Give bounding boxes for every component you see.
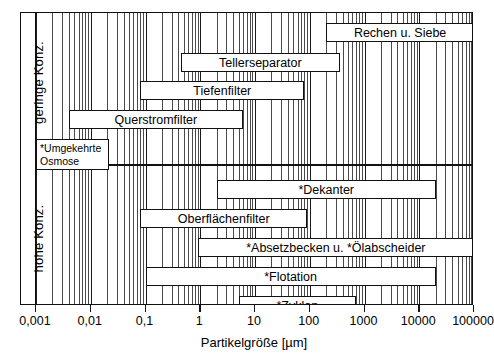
x-tick	[199, 305, 200, 312]
process-bar-label: *Zyklon	[276, 299, 318, 305]
gridline-minor	[445, 13, 446, 304]
gridline-minor	[348, 13, 349, 304]
gridline-minor	[466, 13, 467, 304]
gridline-decade	[146, 13, 147, 304]
gridline-minor	[356, 13, 357, 304]
gridline-minor	[462, 13, 463, 304]
process-bar[interactable]: *UmgekehrteOsmose	[36, 139, 109, 170]
gridline-minor	[162, 13, 163, 304]
gridline-minor	[359, 13, 360, 304]
process-bar[interactable]: *Absetzbecken u. *Ölabscheider	[198, 238, 472, 257]
gridline-minor	[414, 13, 415, 304]
chart-frame: Rechen u. SiebeTellerseparatorTiefenfilt…	[20, 12, 473, 305]
gridline-minor	[469, 13, 470, 304]
x-tick	[90, 305, 91, 312]
x-tick-label: 10000	[401, 314, 436, 328]
gridline-minor	[362, 13, 363, 304]
x-tick	[309, 305, 310, 312]
x-tick-label: 1000	[350, 314, 378, 328]
x-tick-label: 0,001	[19, 314, 50, 328]
gridline-minor	[178, 13, 179, 304]
x-tick	[418, 305, 419, 312]
process-bar-label: Tellerseparator	[219, 56, 302, 70]
process-bar-label: *Umgekehrte	[40, 142, 101, 154]
zone-label-geringe-konz: geringe Konz.	[31, 20, 46, 146]
x-axis: 0,0010,010,1110100100010000100000 Partik…	[35, 305, 473, 355]
x-tick	[364, 305, 365, 312]
x-tick	[254, 305, 255, 312]
process-bar[interactable]: *Flotation	[146, 267, 436, 286]
process-bar[interactable]: Querstromfilter	[69, 110, 243, 129]
gridline-minor	[352, 13, 353, 304]
x-tick	[35, 305, 36, 312]
process-bar-label: Oberflächenfilter	[178, 212, 270, 226]
x-tick-label: 10	[247, 314, 261, 328]
gridline-minor	[458, 13, 459, 304]
x-tick-label: 100000	[452, 314, 494, 328]
process-bar[interactable]: Oberflächenfilter	[140, 209, 307, 228]
process-bar-label: *Flotation	[264, 270, 317, 284]
process-bar-label: *Dekanter	[298, 183, 354, 197]
gridline-minor	[143, 13, 144, 304]
gridline-minor	[403, 13, 404, 304]
gridline-minor	[124, 13, 125, 304]
process-bar-label: *Absetzbecken u. *Ölabscheider	[246, 241, 425, 255]
process-bar[interactable]: *Zyklon	[239, 296, 357, 304]
process-bar-label: Rechen u. Siebe	[354, 26, 446, 40]
process-bar-label: Querstromfilter	[115, 113, 198, 127]
gridline-minor	[172, 13, 173, 304]
x-tick	[473, 305, 474, 312]
x-tick	[145, 305, 146, 312]
gridline-decade	[419, 13, 420, 304]
gridline-minor	[417, 13, 418, 304]
x-tick-label: 1	[196, 314, 203, 328]
gridline-minor	[137, 13, 138, 304]
process-bar-label: Osmose	[40, 155, 79, 167]
gridline-minor	[436, 13, 437, 304]
process-bar[interactable]: Tiefenfilter	[140, 81, 304, 100]
process-bar-label: Tiefenfilter	[193, 84, 251, 98]
process-bar[interactable]: Tellerseparator	[181, 53, 339, 72]
gridline-minor	[381, 13, 382, 304]
zone-label-hohe-konz: hohe Konz.	[31, 176, 46, 302]
gridline-minor	[452, 13, 453, 304]
gridline-minor	[133, 13, 134, 304]
gridline-minor	[117, 13, 118, 304]
gridline-minor	[471, 13, 472, 304]
process-bar[interactable]: *Dekanter	[217, 180, 436, 199]
gridline-minor	[140, 13, 141, 304]
x-tick-label: 100	[298, 314, 319, 328]
gridline-minor	[391, 13, 392, 304]
x-tick-label: 0,01	[78, 314, 102, 328]
gridline-minor	[397, 13, 398, 304]
gridline-minor	[407, 13, 408, 304]
process-bar[interactable]: Rechen u. Siebe	[326, 23, 472, 42]
gridline-decade	[365, 13, 366, 304]
gridline-minor	[411, 13, 412, 304]
x-axis-title: Partikelgröße [µm]	[35, 335, 473, 350]
x-tick-label: 0,1	[136, 314, 153, 328]
plot-area: Rechen u. SiebeTellerseparatorTiefenfilt…	[36, 13, 472, 304]
gridline-minor	[343, 13, 344, 304]
gridline-minor	[129, 13, 130, 304]
